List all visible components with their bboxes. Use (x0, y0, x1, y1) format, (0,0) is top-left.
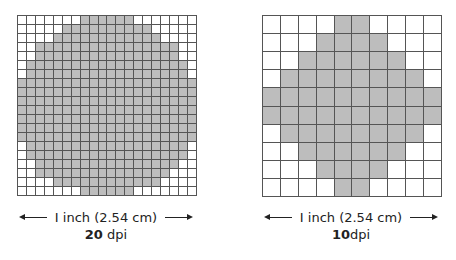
pixel-cell (179, 106, 187, 114)
pixel-cell (406, 70, 423, 87)
pixel-cell (188, 160, 196, 168)
pixel-cell (352, 125, 369, 142)
pixel-cell (188, 16, 196, 24)
pixel-cell (134, 124, 142, 132)
pixel-cell (81, 133, 89, 141)
pixel-cell (54, 70, 62, 78)
pixel-cell (99, 88, 107, 96)
pixel-cell (107, 106, 115, 114)
pixel-cell (161, 16, 169, 24)
pixel-cell (18, 115, 26, 123)
pixel-cell (99, 97, 107, 105)
pixel-cell (72, 115, 80, 123)
pixel-cell (263, 16, 280, 33)
pixel-cell (370, 34, 387, 51)
pixel-cell (54, 106, 62, 114)
pixel-cell (125, 34, 133, 42)
pixel-cell (90, 115, 98, 123)
pixel-cell (45, 61, 53, 69)
pixel-cell (143, 169, 151, 177)
pixel-cell (81, 160, 89, 168)
pixel-cell (72, 88, 80, 96)
pixel-cell (72, 133, 80, 141)
pixel-cell (54, 187, 62, 195)
pixel-cell (81, 61, 89, 69)
pixel-cell (54, 115, 62, 123)
pixel-cell (27, 61, 35, 69)
pixel-cell (36, 160, 44, 168)
pixel-cell (161, 34, 169, 42)
pixel-cell (116, 52, 124, 60)
pixel-cell (143, 187, 151, 195)
pixel-cell (134, 169, 142, 177)
pixel-cell (18, 169, 26, 177)
pixel-cell (18, 43, 26, 51)
pixel-cell (161, 97, 169, 105)
pixel-cell (18, 52, 26, 60)
pixel-cell (81, 142, 89, 150)
pixel-cell (152, 133, 160, 141)
pixel-cell (188, 178, 196, 186)
pixel-cell (72, 61, 80, 69)
pixel-cell (116, 34, 124, 42)
pixel-cell (170, 61, 178, 69)
pixel-cell (107, 160, 115, 168)
pixel-cell (116, 43, 124, 51)
pixel-cell (143, 160, 151, 168)
pixel-cell (81, 106, 89, 114)
pixel-cell (152, 79, 160, 87)
pixel-cell (107, 178, 115, 186)
pixel-cell (27, 25, 35, 33)
pixel-cell (90, 106, 98, 114)
pixel-cell (406, 34, 423, 51)
pixel-cell (143, 142, 151, 150)
pixel-cell (99, 25, 107, 33)
pixel-cell (99, 79, 107, 87)
pixel-cell (125, 106, 133, 114)
pixel-cell (107, 169, 115, 177)
pixel-cell (188, 79, 196, 87)
pixel-cell (107, 61, 115, 69)
pixel-cell (18, 151, 26, 159)
pixel-cell (352, 107, 369, 124)
pixel-cell (161, 88, 169, 96)
pixel-cell (54, 169, 62, 177)
pixel-cell (161, 160, 169, 168)
pixel-cell (81, 178, 89, 186)
pixel-cell (54, 52, 62, 60)
pixel-cell (18, 25, 26, 33)
pixel-cell (81, 187, 89, 195)
pixel-cell (263, 143, 280, 160)
dpi-value: 10 (332, 227, 350, 242)
pixel-cell (125, 97, 133, 105)
pixel-cell (388, 70, 405, 87)
pixel-cell (81, 70, 89, 78)
pixel-cell (107, 115, 115, 123)
pixel-cell (424, 52, 441, 69)
pixel-cell (388, 88, 405, 105)
pixel-cell (90, 88, 98, 96)
pixel-cell (54, 142, 62, 150)
pixel-cell (143, 106, 151, 114)
pixel-cell (63, 187, 71, 195)
pixel-cell (188, 88, 196, 96)
pixel-cell (179, 43, 187, 51)
pixel-cell (170, 79, 178, 87)
pixel-cell (179, 25, 187, 33)
pixel-cell (18, 79, 26, 87)
pixel-cell (72, 124, 80, 132)
pixel-cell (125, 160, 133, 168)
pixel-cell (424, 179, 441, 196)
pixel-cell (179, 97, 187, 105)
pixel-cell (54, 151, 62, 159)
pixel-cell (107, 34, 115, 42)
pixel-cell (281, 70, 298, 87)
pixel-cell (335, 125, 352, 142)
pixel-cell (317, 143, 334, 160)
pixel-cell (152, 142, 160, 150)
pixel-cell (281, 107, 298, 124)
pixel-cell (27, 133, 35, 141)
pixel-cell (335, 34, 352, 51)
pixel-cell (54, 61, 62, 69)
pixel-cell (170, 187, 178, 195)
